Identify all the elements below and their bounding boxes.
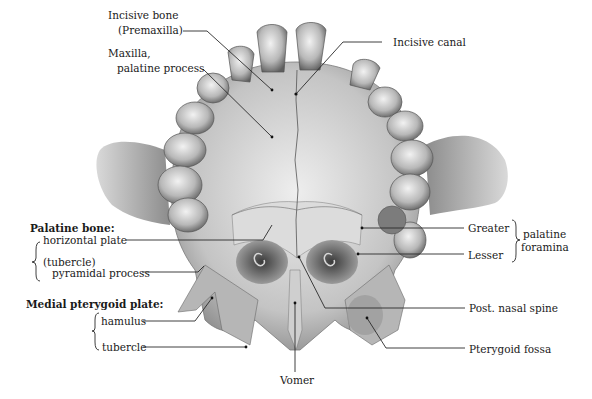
zygomatic-wing-right [425,136,508,215]
label-vomer: Vomer [280,374,314,386]
label-lesser: Lesser [468,249,503,261]
label-horizontal-plate: horizontal plate [43,234,127,246]
label-premaxilla: (Premaxilla) [118,24,183,36]
label-hamulus: hamulus [101,315,146,327]
label-palatine-bone: Palatine bone: [30,222,115,234]
label-maxilla: Maxilla, [108,47,151,59]
label-foramina: foramina [521,241,569,253]
label-greater: Greater [468,222,509,234]
label-medial-pterygoid-plate: Medial pterygoid plate: [26,298,163,310]
label-pterygoid-fossa: Pterygoid fossa [469,343,551,355]
label-palatine-process: palatine process [117,62,204,74]
label-pyramidal-process: pyramidal process [52,267,150,279]
label-post-nasal-spine: Post. nasal spine [469,302,558,314]
label-incisive-canal: Incisive canal [393,36,466,48]
label-palatine: palatine [523,228,566,240]
label-tubercle: tubercle [102,341,146,353]
skull-palate-drawing [0,0,592,399]
anatomy-figure: Incisive bone (Premaxilla) Maxilla, pala… [0,0,592,399]
label-incisive-bone: Incisive bone [108,9,178,21]
